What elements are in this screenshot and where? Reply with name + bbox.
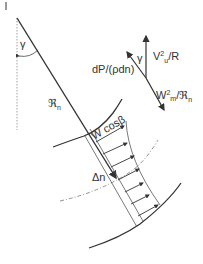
radius-label-sub: n (57, 104, 61, 111)
pressure-gradient-label: dP/(ρdn) (92, 63, 134, 75)
lower-streamline (89, 183, 181, 248)
angle-arc (19, 50, 38, 56)
centrifugal-label: V2u/R (153, 50, 179, 64)
angle-gamma-label: γ (20, 38, 26, 50)
diagram-canvas: γ ℜ n γ V2u/R dP/(ρdn) W2m/ℜn W cosβ Δn (0, 0, 203, 264)
mid-streamline-dashed (60, 140, 158, 201)
delta-n-label: Δn (92, 171, 105, 183)
force-gamma-label: γ (137, 52, 143, 64)
radius-label: ℜ (48, 97, 57, 109)
velocity-profile-envelope (126, 121, 160, 205)
meridional-label: W2m/ℜn (156, 89, 192, 103)
radius-line (17, 18, 116, 178)
